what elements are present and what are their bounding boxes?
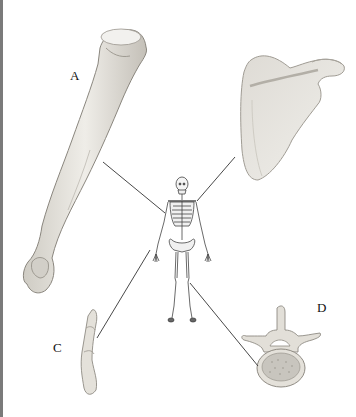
leader-line-d [190, 283, 258, 366]
phalanx-bones [81, 310, 97, 395]
leader-line-c [97, 250, 150, 338]
leader-line-a [103, 162, 165, 213]
scapula-bone [241, 56, 345, 180]
label-d: D [317, 300, 326, 316]
full-skeleton-figure [153, 177, 211, 322]
label-c: C [53, 340, 62, 356]
humerus-bone [23, 29, 146, 293]
leader-line-b [197, 157, 235, 201]
vertebra-bone [242, 306, 321, 387]
label-a: A [70, 68, 79, 84]
